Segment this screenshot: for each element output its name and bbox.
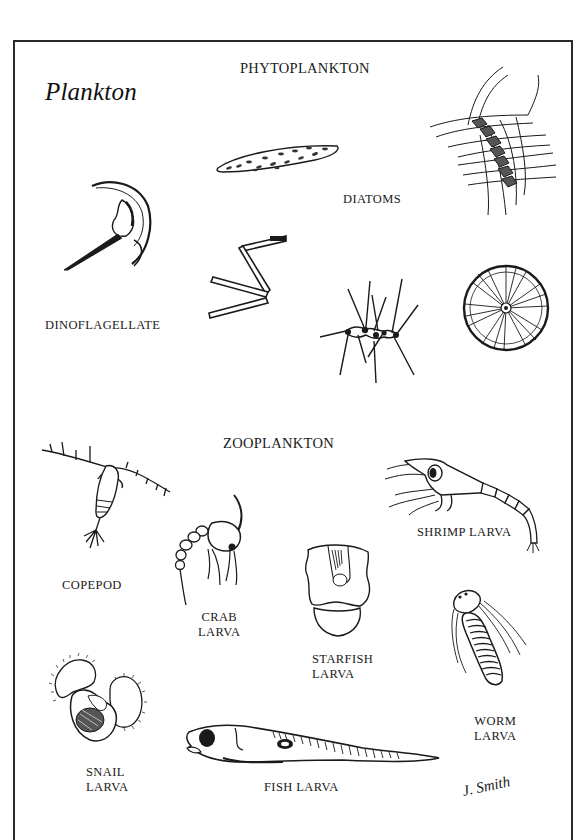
label-snail-larva: SNAIL LARVA (86, 765, 128, 795)
crab-larva-icon (172, 493, 252, 611)
label-starfish-larva-line2: LARVA (312, 667, 373, 682)
label-fish-larva: FISH LARVA (264, 780, 339, 795)
starfish-larva-icon (300, 540, 378, 640)
label-diatoms: DIATOMS (343, 192, 401, 207)
label-starfish-larva-line1: STARFISH (312, 652, 373, 667)
chain-diatom-icon (428, 65, 563, 220)
snail-larva-icon (48, 650, 148, 750)
spiny-colony-diatom-icon (318, 275, 420, 385)
label-worm-larva-line1: WORM (474, 714, 516, 729)
label-crab-larva: CRAB LARVA (198, 610, 240, 640)
label-shrimp-larva: SHRIMP LARVA (417, 525, 511, 540)
label-crab-larva-line2: LARVA (198, 625, 240, 640)
label-snail-larva-line1: SNAIL (86, 765, 128, 780)
section-heading-phytoplankton: PHYTOPLANKTON (240, 60, 370, 77)
copepod-icon (40, 440, 175, 555)
fish-larva-icon (183, 718, 443, 768)
pennate-diatom-icon (215, 138, 343, 178)
label-snail-larva-line2: LARVA (86, 780, 128, 795)
page-title: Plankton (45, 78, 137, 106)
zigzag-diatom-icon (208, 234, 290, 326)
shrimp-larva-icon (385, 455, 550, 565)
worm-larva-icon (444, 583, 529, 693)
label-worm-larva-line2: LARVA (474, 729, 516, 744)
label-worm-larva: WORM LARVA (474, 714, 516, 744)
label-copepod: COPEPOD (62, 578, 122, 593)
section-heading-zooplankton: ZOOPLANKTON (223, 435, 334, 452)
centric-disc-diatom-icon (460, 262, 552, 354)
label-dinoflagellate: DINOFLAGELLATE (45, 318, 160, 333)
dinoflagellate-icon (60, 180, 160, 285)
label-starfish-larva: STARFISH LARVA (312, 652, 373, 682)
label-crab-larva-line1: CRAB (198, 610, 240, 625)
